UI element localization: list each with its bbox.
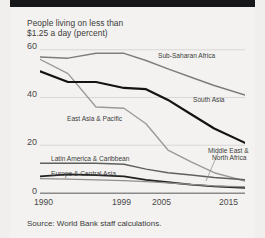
series-label-middle-east-north-africa-line2: North Africa: [212, 154, 246, 161]
series-label-east-asia-pacific: East Asia & Pacific: [67, 115, 122, 122]
x-tick-2015: 2015: [219, 197, 238, 207]
x-axis-line: [40, 193, 245, 194]
y-tick-60: 60: [17, 41, 37, 51]
top-black-bar: [10, 0, 255, 7]
y-tick-40: 40: [17, 89, 37, 99]
x-tick-2005: 2005: [152, 197, 171, 207]
source-note: Source: World Bank staff calculations.: [27, 219, 161, 228]
series-line-south-asia: [40, 71, 245, 143]
title-line-2: $1.25 a day (percent): [27, 29, 217, 39]
chart-card: People living on less than $1.25 a day (…: [10, 7, 255, 238]
y-tick-0: 0: [17, 186, 37, 196]
x-tick-1999: 1999: [112, 197, 131, 207]
page-title: People living on less than $1.25 a day (…: [27, 19, 217, 38]
x-tick-1990: 1990: [34, 197, 53, 207]
series-label-europe-central-asia: Europe & Central Asia: [51, 170, 116, 177]
y-tick-20: 20: [17, 137, 37, 147]
series-label-south-asia: South Asia: [193, 96, 225, 103]
series-label-sub-saharan-africa: Sub-Saharan Africa: [158, 52, 215, 59]
series-label-latin-america-caribbean: Latin America & Caribbean: [51, 155, 129, 162]
